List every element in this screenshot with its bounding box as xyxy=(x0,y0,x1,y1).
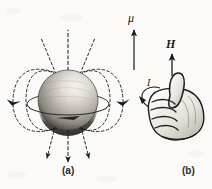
figure-magnetized-sphere-right-hand-rule: μ H I (a) (b) xyxy=(0,0,212,189)
panel-a-label: (a) xyxy=(62,166,74,176)
H-label: H xyxy=(166,38,175,50)
I-label: I xyxy=(147,78,150,88)
panel-b-graphics xyxy=(0,0,212,189)
current-arrowhead xyxy=(139,96,146,104)
panel-b-label: (b) xyxy=(182,166,195,176)
mu-label: μ xyxy=(128,12,134,24)
right-hand-thumbs-up xyxy=(148,73,203,140)
